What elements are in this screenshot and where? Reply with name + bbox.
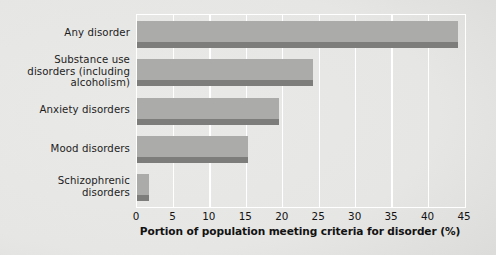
category-axis-labels: Any disorderSubstance usedisorders (incl… bbox=[6, 14, 130, 206]
category-label-line: alcoholism) bbox=[6, 77, 130, 89]
bar-shadow bbox=[137, 119, 279, 125]
category-label: Mood disorders bbox=[6, 143, 130, 155]
bar-body bbox=[137, 98, 279, 119]
bar-shadow bbox=[137, 157, 248, 163]
x-tick-label: 25 bbox=[312, 210, 325, 222]
bar bbox=[137, 136, 248, 163]
bar-shadow bbox=[137, 42, 458, 48]
category-label: Substance usedisorders (includingalcohol… bbox=[6, 54, 130, 89]
x-tick-label: 0 bbox=[133, 210, 140, 222]
bar bbox=[137, 59, 313, 86]
category-label-line: disorders bbox=[6, 187, 130, 199]
category-label-line: disorders (including bbox=[6, 66, 130, 78]
x-tick-label: 10 bbox=[202, 210, 215, 222]
x-tick-label: 35 bbox=[384, 210, 397, 222]
bar-body bbox=[137, 21, 458, 42]
x-axis-title: Portion of population meeting criteria f… bbox=[136, 225, 464, 237]
category-label-line: Mood disorders bbox=[6, 143, 130, 155]
x-tick-label: 5 bbox=[169, 210, 176, 222]
bar bbox=[137, 21, 458, 48]
plot-area bbox=[136, 14, 466, 208]
category-label: Anxiety disorders bbox=[6, 104, 130, 116]
bar bbox=[137, 174, 149, 201]
x-tick-label: 40 bbox=[421, 210, 434, 222]
category-label-line: Any disorder bbox=[6, 27, 130, 39]
category-label-line: Anxiety disorders bbox=[6, 104, 130, 116]
bar-body bbox=[137, 59, 313, 80]
x-tick-label: 20 bbox=[275, 210, 288, 222]
x-tick-label: 30 bbox=[348, 210, 361, 222]
category-label: Schizophrenicdisorders bbox=[6, 175, 130, 198]
category-label-line: Substance use bbox=[6, 54, 130, 66]
bar bbox=[137, 98, 279, 125]
category-label: Any disorder bbox=[6, 27, 130, 39]
x-tick-label: 15 bbox=[239, 210, 252, 222]
bar-shadow bbox=[137, 80, 313, 86]
bar-body bbox=[137, 136, 248, 157]
bar-shadow bbox=[137, 195, 149, 201]
category-label-line: Schizophrenic bbox=[6, 175, 130, 187]
bar-body bbox=[137, 174, 149, 195]
x-tick-label: 45 bbox=[457, 210, 470, 222]
chart-figure: Any disorderSubstance usedisorders (incl… bbox=[0, 0, 496, 255]
